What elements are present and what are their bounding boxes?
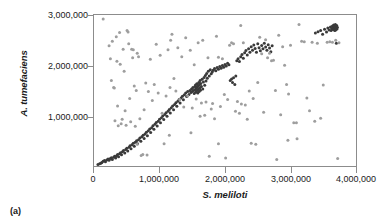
x-tick-label-2000000: 2,000,000 <box>190 174 260 184</box>
x-tick-label-1000000: 1,000,000 <box>124 174 194 184</box>
scatter-plot-area <box>93 14 357 167</box>
y-tick-label-2000000: 2,000,000 <box>26 61 88 71</box>
x-tick-mark-3000000 <box>291 167 292 173</box>
y-tick-label-3000000: 3,000,000 <box>26 10 88 20</box>
x-tick-mark-0 <box>93 167 94 173</box>
x-tick-mark-2000000 <box>225 167 226 173</box>
x-tick-label-4000000: 4,000,000 <box>321 174 381 184</box>
x-tick-label-0: 0 <box>58 174 128 184</box>
scatter-points-layer <box>94 15 356 166</box>
x-tick-mark-4000000 <box>356 167 357 173</box>
y-axis-tick-labels: 3,000,000 2,000,000 1,000,000 <box>24 0 88 224</box>
x-tick-mark-1000000 <box>159 167 160 173</box>
panel-caption: (a) <box>10 206 21 216</box>
x-tick-label-3000000: 3,000,000 <box>256 174 326 184</box>
y-tick-label-1000000: 1,000,000 <box>26 112 88 122</box>
x-axis-title: S. meliloti <box>93 189 357 200</box>
